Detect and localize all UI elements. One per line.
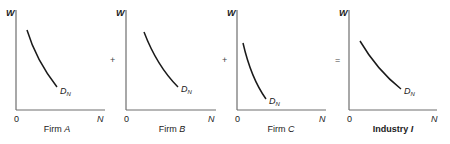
y-axis-label: W bbox=[6, 9, 15, 18]
caption-prefix: Firm bbox=[44, 124, 65, 134]
y-axis-label: W bbox=[227, 9, 236, 18]
curve-label-sub: N bbox=[188, 89, 192, 95]
origin-label: 0 bbox=[14, 115, 19, 124]
demand-curve bbox=[360, 41, 401, 89]
origin-label: 0 bbox=[235, 115, 240, 124]
panel-caption: Firm B bbox=[159, 125, 186, 134]
panel-industry-i-graph bbox=[349, 10, 437, 110]
caption-var: I bbox=[411, 124, 414, 134]
curve-label-sub: N bbox=[276, 101, 280, 107]
origin-label: 0 bbox=[347, 115, 352, 124]
curve-label: DN bbox=[269, 97, 280, 106]
plus-operator: + bbox=[222, 56, 227, 65]
curve-label: DN bbox=[60, 87, 71, 96]
curve-label-main: D bbox=[404, 86, 411, 96]
caption-var: A bbox=[64, 124, 70, 134]
x-axis-label: N bbox=[97, 115, 104, 124]
curve-label-sub: N bbox=[411, 91, 415, 97]
y-axis-label: W bbox=[116, 9, 125, 18]
caption-var: C bbox=[288, 124, 295, 134]
curve-label-main: D bbox=[60, 86, 67, 96]
panel-caption: Industry I bbox=[373, 125, 414, 134]
x-axis-label: N bbox=[208, 115, 215, 124]
panel-firm-b-graph bbox=[126, 10, 216, 110]
x-axis-label: N bbox=[431, 115, 438, 124]
plus-operator: + bbox=[110, 56, 115, 65]
curve-label: DN bbox=[181, 85, 192, 94]
x-axis-label: N bbox=[319, 115, 326, 124]
curve-label-sub: N bbox=[67, 91, 71, 97]
curve-label-main: D bbox=[181, 84, 188, 94]
diagram-canvas bbox=[0, 0, 450, 144]
caption-prefix: Industry bbox=[373, 124, 411, 134]
curve-label: DN bbox=[404, 87, 415, 96]
demand-curve bbox=[144, 32, 178, 87]
panel-caption: Firm C bbox=[268, 125, 295, 134]
demand-curve bbox=[243, 43, 266, 99]
y-axis-label: W bbox=[339, 9, 348, 18]
caption-var: B bbox=[179, 124, 185, 134]
origin-label: 0 bbox=[124, 115, 129, 124]
panel-firm-c-graph bbox=[237, 10, 326, 110]
demand-curve bbox=[27, 30, 57, 87]
caption-prefix: Firm bbox=[159, 124, 180, 134]
panel-caption: Firm A bbox=[44, 125, 71, 134]
equals-operator: = bbox=[335, 56, 340, 65]
caption-prefix: Firm bbox=[268, 124, 289, 134]
curve-label-main: D bbox=[269, 96, 276, 106]
